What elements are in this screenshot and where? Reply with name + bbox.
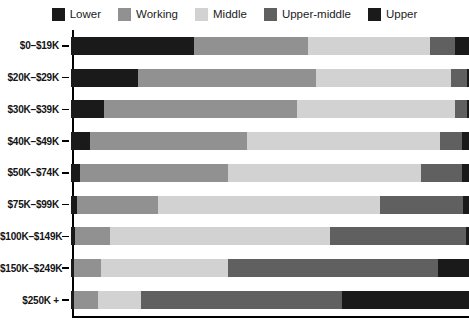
stacked-bar-chart: Lower Working Middle Upper-middle Upper … [0, 0, 469, 327]
legend-item-label: Middle [213, 8, 247, 21]
y-axis-tick [62, 77, 69, 79]
bar-segment-upper-middle [141, 291, 342, 309]
bar-row: $40K–$49K [0, 127, 469, 156]
bar-segment-upper-middle [330, 227, 465, 245]
y-axis-tick [62, 45, 69, 47]
bar-segment-upper-middle [451, 69, 466, 87]
bar-segment-working [138, 69, 316, 87]
legend-item-label: Lower [70, 8, 101, 21]
stacked-bar [71, 164, 469, 182]
bar-row: $20K–$29K [0, 63, 469, 92]
legend-item-middle: Middle [195, 8, 247, 21]
legend-item-label: Upper-middle [282, 8, 351, 21]
bar-segment-upper [455, 37, 469, 55]
bar-row: $100K–$149K [0, 222, 469, 251]
bar-segment-lower [71, 100, 105, 118]
chart-legend: Lower Working Middle Upper-middle Upper [0, 0, 469, 28]
bar-segment-working [104, 100, 297, 118]
y-axis-tick [62, 140, 69, 142]
bar-segment-working [74, 291, 98, 309]
bar-segment-upper-middle [228, 259, 438, 277]
bar-segment-middle [158, 196, 380, 214]
legend-item-lower: Lower [52, 8, 101, 21]
bar-segment-middle [308, 37, 430, 55]
bar-segment-upper [462, 164, 469, 182]
bar-row: $0–$19K [0, 31, 469, 60]
y-axis-tick [62, 204, 69, 206]
bar-segment-working [74, 259, 100, 277]
bar-segment-working [77, 196, 158, 214]
bar-row: $30K–$39K [0, 95, 469, 124]
legend-item-upper: Upper [368, 8, 417, 21]
bar-segment-middle [247, 132, 440, 150]
bar-segment-lower [71, 132, 90, 150]
y-axis-tick [62, 172, 69, 174]
bar-segment-middle [228, 164, 421, 182]
stacked-bar [71, 259, 469, 277]
stacked-bar [71, 227, 469, 245]
x-axis-line [72, 316, 469, 318]
bar-segment-working [75, 227, 109, 245]
category-label: $40K–$49K [0, 136, 62, 147]
category-label: $250K + [0, 295, 62, 306]
legend-swatch-icon [264, 8, 277, 21]
category-label: $100K–$149K [0, 231, 62, 242]
bar-segment-middle [316, 69, 451, 87]
stacked-bar [71, 69, 469, 87]
legend-swatch-icon [118, 8, 131, 21]
stacked-bar [71, 196, 469, 214]
category-label: $150K–$249K [0, 263, 62, 274]
y-axis-tick [62, 109, 69, 111]
y-axis-tick [62, 267, 69, 269]
category-label: $0–$19K [0, 40, 62, 51]
bar-rows: $0–$19K$20K–$29K$30K–$39K$40K–$49K$50K–$… [0, 30, 469, 316]
bar-segment-working [80, 164, 229, 182]
bar-segment-lower [71, 164, 80, 182]
bar-segment-middle [297, 100, 455, 118]
bar-row: $50K–$74K [0, 158, 469, 187]
bar-segment-working [194, 37, 308, 55]
bar-segment-upper [342, 291, 469, 309]
stacked-bar [71, 37, 469, 55]
category-label: $50K–$74K [0, 167, 62, 178]
bar-segment-lower [71, 37, 195, 55]
bar-segment-upper [462, 132, 469, 150]
bar-row: $250K + [0, 286, 469, 315]
legend-item-label: Working [136, 8, 178, 21]
bar-segment-middle [98, 291, 141, 309]
bar-segment-middle [110, 227, 331, 245]
bar-segment-upper-middle [421, 164, 462, 182]
legend-item-working: Working [118, 8, 178, 21]
legend-swatch-icon [368, 8, 381, 21]
y-axis-tick [62, 299, 69, 301]
plot-area: $0–$19K$20K–$29K$30K–$39K$40K–$49K$50K–$… [0, 28, 469, 327]
bar-segment-middle [101, 259, 229, 277]
legend-swatch-icon [52, 8, 65, 21]
category-label: $30K–$39K [0, 104, 62, 115]
bar-segment-upper-middle [440, 132, 462, 150]
legend-item-label: Upper [386, 8, 417, 21]
bar-segment-upper [463, 196, 469, 214]
stacked-bar [71, 291, 469, 309]
bar-segment-upper [438, 259, 469, 277]
y-axis-tick [62, 236, 69, 238]
category-label: $75K–$99K [0, 199, 62, 210]
bar-segment-lower [71, 69, 139, 87]
bar-row: $150K–$249K [0, 254, 469, 283]
bar-segment-upper-middle [380, 196, 462, 214]
bar-row: $75K–$99K [0, 190, 469, 219]
stacked-bar [71, 132, 469, 150]
legend-swatch-icon [195, 8, 208, 21]
bar-segment-working [90, 132, 248, 150]
category-label: $20K–$29K [0, 72, 62, 83]
bar-segment-upper-middle [455, 100, 467, 118]
legend-item-upper-middle: Upper-middle [264, 8, 351, 21]
bar-segment-upper-middle [430, 37, 455, 55]
stacked-bar [71, 100, 469, 118]
